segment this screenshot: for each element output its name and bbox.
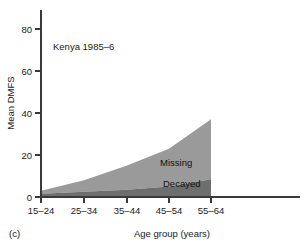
- y-tick-label-80: 80: [21, 24, 32, 35]
- panel-identifier: (c): [9, 228, 20, 239]
- y-tick-label-0: 0: [27, 192, 32, 203]
- chart-svg: 0 20 40 60 80 15–24 25–34 35–44 45–54 55…: [0, 0, 306, 249]
- series-label-missing: Missing: [160, 157, 192, 168]
- y-tick-label-60: 60: [21, 66, 32, 77]
- chart-figure: 0 20 40 60 80 15–24 25–34 35–44 45–54 55…: [0, 0, 306, 249]
- x-tick-label-4: 45–54: [156, 205, 182, 216]
- y-tick-label-40: 40: [21, 108, 32, 119]
- x-tick-label-3: 35–44: [114, 205, 140, 216]
- y-axis-title: Mean DMFS: [5, 76, 16, 129]
- x-tick-label-2: 25–34: [71, 205, 97, 216]
- x-axis-title: Age group (years): [134, 228, 210, 239]
- series-label-decayed: Decayed: [163, 178, 201, 189]
- y-tick-label-20: 20: [21, 150, 32, 161]
- x-tick-label-1: 15–24: [28, 205, 54, 216]
- x-tick-label-5: 55–64: [198, 205, 224, 216]
- chart-annotation: Kenya 1985–6: [53, 41, 114, 52]
